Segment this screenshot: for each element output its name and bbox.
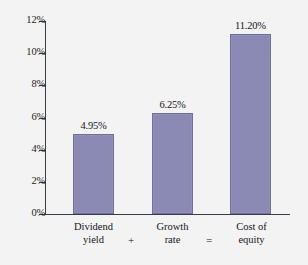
y-tick-label-8: 8% [11, 79, 45, 90]
x-category-label-growth-rate: Growth rate [136, 221, 209, 246]
bar-growth-rate [152, 113, 193, 214]
y-tick-label-6: 6% [11, 112, 45, 123]
x-axis-line [45, 214, 290, 215]
operator-equals: = [201, 234, 217, 246]
bar-dividend-yield [73, 134, 114, 214]
y-tick-label-12: 12% [11, 15, 45, 26]
y-tick-label-4: 4% [11, 144, 45, 155]
y-tick-label-10: 10% [11, 47, 45, 58]
bar-value-dividend-yield: 4.95% [60, 120, 127, 131]
bar-value-cost-of-equity: 11.20% [214, 20, 287, 31]
bar-chart: 12% 10% 8% 6% 4% 2% 0% 4.95% 6.25% 11.20… [0, 0, 308, 265]
y-tick-label-0: 0% [11, 208, 45, 219]
bar-value-growth-rate: 6.25% [139, 99, 206, 110]
operator-plus: + [123, 234, 139, 246]
bar-cost-of-equity [230, 34, 271, 214]
x-category-label-cost-of-equity: Cost of equity [213, 221, 290, 246]
y-axis-line [45, 21, 46, 214]
x-category-label-dividend-yield: Dividend yield [56, 221, 131, 246]
y-tick-label-2: 2% [11, 176, 45, 187]
